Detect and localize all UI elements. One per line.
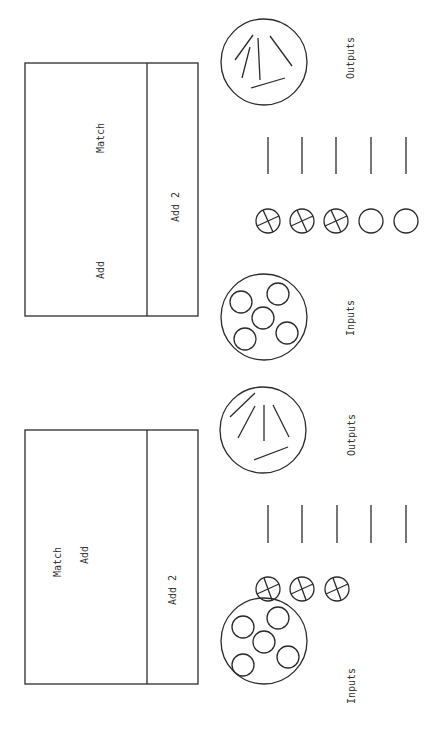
output-lines [268, 137, 406, 174]
outputs-circle-icon [221, 19, 307, 105]
slot-row [256, 209, 418, 233]
slot-empty-icon [359, 209, 383, 233]
panel-top: Match Add Add 2 Outputs [25, 19, 418, 360]
memory-box [25, 430, 198, 684]
outputs-circle-icon [220, 387, 306, 473]
inputs-circle-icon [221, 274, 307, 360]
slot-row [256, 577, 349, 601]
inputs-label: Inputs [346, 668, 357, 704]
slot-crossed-icon [256, 577, 280, 601]
slot-crossed-icon [325, 577, 349, 601]
add-label: Add [95, 261, 106, 279]
diagram-canvas: Match Add Add 2 Outputs [0, 0, 435, 750]
slot-crossed-icon [290, 577, 314, 601]
match-label: Match [52, 547, 63, 577]
slot-crossed-icon [256, 209, 280, 233]
add2-label: Add 2 [170, 192, 181, 222]
add2-label: Add 2 [167, 575, 178, 605]
match-label: Match [95, 123, 106, 153]
output-lines [268, 505, 406, 543]
slot-empty-icon [394, 209, 418, 233]
panel-bottom: Match Add Add 2 Outputs [25, 387, 406, 704]
slot-crossed-icon [290, 209, 314, 233]
inputs-circle-icon [221, 598, 307, 684]
outputs-label: Outputs [345, 37, 356, 79]
outputs-label: Outputs [346, 414, 357, 456]
memory-box [25, 63, 198, 316]
slot-crossed-icon [324, 209, 348, 233]
add-label: Add [79, 546, 90, 564]
inputs-label: Inputs [345, 300, 356, 336]
